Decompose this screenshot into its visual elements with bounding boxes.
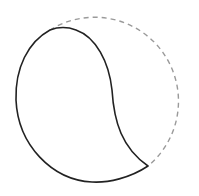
- dashed-circle-arc: [50, 17, 178, 166]
- shape-diagram: [0, 0, 199, 196]
- diagram-canvas: Teardrop/comma shape inside a dashed cir…: [0, 0, 199, 196]
- solid-teardrop-shape: [16, 28, 148, 182]
